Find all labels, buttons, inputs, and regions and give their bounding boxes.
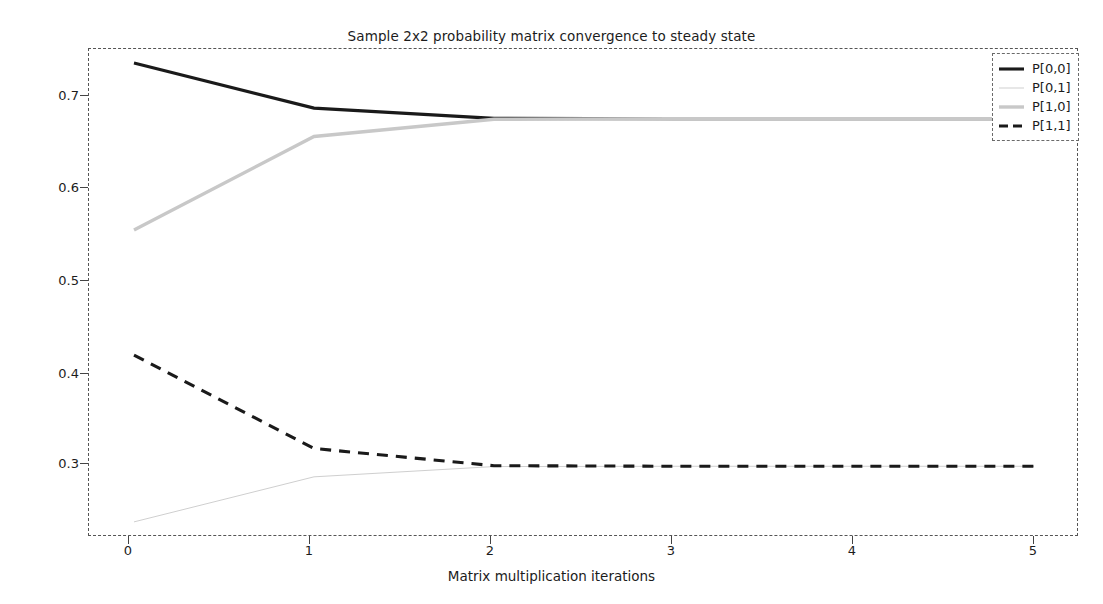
xtick-label-1: 1 [279, 543, 339, 558]
ytick-mark-0.3 [80, 463, 88, 464]
series-line-p11 [134, 355, 1034, 466]
series-line-p10 [134, 119, 1034, 230]
legend-label-p00: P[0,0] [1032, 62, 1071, 76]
ytick-label-0.4: 0.4 [19, 366, 79, 381]
legend-swatch-p10 [998, 100, 1025, 114]
series-line-p01 [134, 466, 1034, 522]
xtick-label-4: 4 [822, 543, 882, 558]
ytick-label-0.7: 0.7 [19, 88, 79, 103]
x-axis-label: Matrix multiplication iterations [0, 568, 1103, 584]
legend-item-p00[interactable]: P[0,0] [998, 59, 1071, 78]
plot-lines [89, 49, 1079, 537]
xtick-label-2: 2 [460, 543, 520, 558]
legend-swatch-p01 [998, 81, 1025, 95]
plot-area [88, 48, 1078, 536]
legend-label-p10: P[1,0] [1032, 100, 1071, 114]
ytick-label-0.5: 0.5 [19, 273, 79, 288]
legend-item-p10[interactable]: P[1,0] [998, 97, 1071, 116]
legend-swatch-p11 [998, 119, 1025, 133]
chart-legend[interactable]: P[0,0] P[0,1] P[1,0] P[1,1] [992, 53, 1079, 141]
xtick-label-5: 5 [1003, 543, 1063, 558]
ytick-mark-0.6 [80, 187, 88, 188]
ytick-mark-0.7 [80, 95, 88, 96]
ytick-mark-0.5 [80, 280, 88, 281]
chart-title: Sample 2x2 probability matrix convergenc… [0, 28, 1103, 44]
ytick-label-0.6: 0.6 [19, 180, 79, 195]
series-line-p00 [134, 63, 1034, 119]
chart-figure: Sample 2x2 probability matrix convergenc… [0, 0, 1103, 604]
ytick-mark-0.4 [80, 373, 88, 374]
ytick-label-0.3: 0.3 [19, 456, 79, 471]
xtick-label-0: 0 [98, 543, 158, 558]
legend-label-p01: P[0,1] [1032, 81, 1071, 95]
legend-item-p01[interactable]: P[0,1] [998, 78, 1071, 97]
xtick-label-3: 3 [641, 543, 701, 558]
legend-swatch-p00 [998, 62, 1025, 76]
legend-item-p11[interactable]: P[1,1] [998, 116, 1071, 135]
legend-label-p11: P[1,1] [1032, 119, 1071, 133]
